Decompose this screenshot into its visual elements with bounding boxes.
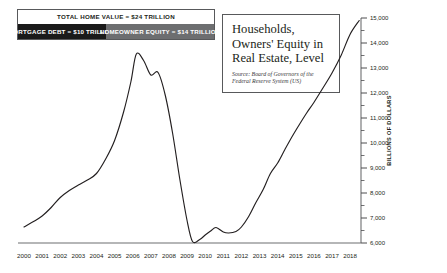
y-tick-label: 9,000 [370,165,386,171]
y-axis-title: BILLIONS OF DOLLARS [386,95,392,166]
y-axis: 6,0007,0008,0009,00010,00011,00012,00013… [361,15,392,246]
x-tick-label: 2000 [17,252,31,259]
x-tick-label: 2013 [253,252,267,259]
y-tick-label: 15,000 [370,15,389,21]
x-tick-label: 2015 [289,252,303,259]
x-tick-label: 2008 [162,252,176,259]
x-tick-label: 2004 [90,252,104,259]
x-tick-label: 2012 [235,252,249,259]
x-tick-label: 2006 [126,252,140,259]
x-tick-label: 2009 [180,252,194,259]
x-tick-label-group: 2000200120022003200420052006200720082009… [17,252,357,259]
x-tick-label: 2017 [325,252,339,259]
x-tick-label: 2014 [271,252,285,259]
y-tick-label: 14,000 [370,40,389,46]
x-tick-label: 2005 [108,252,122,259]
x-tick-label: 2011 [217,252,231,259]
y-tick-label: 7,000 [370,215,386,221]
equity-line-series [24,21,359,243]
y-tick-label: 8,000 [370,190,386,196]
x-tick-label: 2001 [35,252,49,259]
x-tick-label: 2002 [53,252,67,259]
y-tick-label: 13,000 [370,65,389,71]
x-tick-label: 2016 [307,252,321,259]
x-tick-label: 2018 [343,252,357,259]
x-tick-label: 2010 [198,252,212,259]
y-tick-label: 6,000 [370,240,386,246]
y-tick-group [361,18,367,243]
x-tick-label: 2003 [71,252,85,259]
x-tick-label: 2007 [144,252,158,259]
chart-container: TOTAL HOME VALUE = $24 TRILLION MORTGAGE… [0,0,447,273]
plot-area: 6,0007,0008,0009,00010,00011,00012,00013… [0,0,447,273]
